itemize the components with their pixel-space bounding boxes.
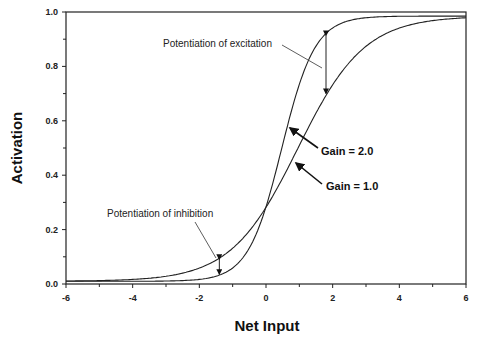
inhibition-leader xyxy=(195,222,216,258)
gain2-pointer xyxy=(290,128,318,148)
gain1-pointer xyxy=(296,163,322,184)
y-tick-label: 0.4 xyxy=(45,170,58,180)
activation-chart: -6-4-202460.00.20.40.60.81.0 Potentiatio… xyxy=(0,0,480,345)
y-tick-label: 0.0 xyxy=(45,279,58,289)
x-tick-label: -2 xyxy=(195,293,203,303)
excitation-leader xyxy=(282,45,322,68)
x-tick-label: 2 xyxy=(330,293,335,303)
y-tick-label: 1.0 xyxy=(45,7,58,17)
x-axis-title: Net Input xyxy=(235,317,300,334)
x-tick-label: 6 xyxy=(463,293,468,303)
x-tick-label: 4 xyxy=(397,293,402,303)
gain-1-curve xyxy=(66,18,466,281)
x-tick-label: -4 xyxy=(129,293,137,303)
axes: -6-4-202460.00.20.40.60.81.0 xyxy=(45,7,468,303)
y-tick-label: 0.6 xyxy=(45,116,58,126)
annotations: Potentiation of excitation Potentiation … xyxy=(8,35,378,334)
inhibition-label: Potentiation of inhibition xyxy=(107,208,213,219)
x-tick-label: 0 xyxy=(263,293,268,303)
y-tick-label: 0.2 xyxy=(45,225,58,235)
chart-canvas: -6-4-202460.00.20.40.60.81.0 Potentiatio… xyxy=(0,0,480,345)
gain2-label: Gain = 2.0 xyxy=(321,145,373,157)
y-tick-label: 0.8 xyxy=(45,61,58,71)
excitation-label: Potentiation of excitation xyxy=(163,38,272,49)
curves xyxy=(66,16,466,281)
x-tick-label: -6 xyxy=(62,293,70,303)
gain-2-curve xyxy=(66,16,466,281)
plot-frame xyxy=(66,12,466,284)
gain1-label: Gain = 1.0 xyxy=(326,180,378,192)
y-axis-title: Activation xyxy=(8,112,25,185)
